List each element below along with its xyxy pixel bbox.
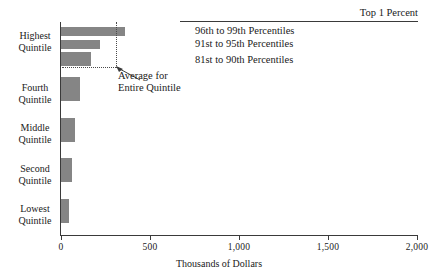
category-label-highest-quintile-line-1: Highest (3, 30, 67, 42)
category-label-highest-quintile-line-2: Quintile (3, 42, 67, 54)
category-label-lowest-quintile: Lowest Quintile (3, 203, 67, 226)
callout-96th-to-99th: 96th to 99th Percentiles (195, 25, 294, 37)
average-vertical-dotted-line (116, 22, 117, 68)
x-tick-1000 (239, 236, 240, 240)
x-tick-2000 (417, 236, 418, 240)
average-note-line-1: Average for (118, 70, 181, 82)
category-label-middle-quintile-line-1: Middle (3, 122, 67, 134)
category-label-second-quintile: Second Quintile (3, 163, 67, 186)
category-label-middle-quintile: Middle Quintile (3, 122, 67, 145)
x-tick-0 (61, 236, 62, 240)
x-tick-label-1500: 1,500 (317, 242, 339, 252)
top-header-rule (180, 21, 418, 22)
x-tick-label-500: 500 (143, 242, 158, 252)
average-note: Average for Entire Quintile (118, 70, 181, 94)
category-label-lowest-quintile-line-2: Quintile (3, 215, 67, 227)
income-distribution-bar-chart: Top 1 Percent 0 500 1,000 1,500 2,000 Th… (0, 0, 438, 278)
callout-81st-to-90th: 81st to 90th Percentiles (195, 54, 293, 66)
category-label-second-quintile-line-1: Second (3, 163, 67, 175)
category-label-second-quintile-line-2: Quintile (3, 175, 67, 187)
callout-91st-to-95th: 91st to 95th Percentiles (195, 38, 293, 50)
category-label-middle-quintile-line-2: Quintile (3, 134, 67, 146)
bar-81st-to-90th-percentiles (61, 52, 91, 66)
category-label-fourth-quintile: Fourth Quintile (3, 82, 67, 105)
x-tick-label-1000: 1,000 (228, 242, 250, 252)
x-tick-label-0: 0 (59, 242, 64, 252)
x-tick-1500 (328, 236, 329, 240)
top-1-percent-label: Top 1 Percent (360, 7, 418, 18)
x-tick-label-2000: 2,000 (406, 242, 428, 252)
average-horizontal-dotted-line (62, 67, 116, 68)
x-tick-500 (150, 236, 151, 240)
category-label-highest-quintile: Highest Quintile (3, 30, 67, 53)
x-axis-title: Thousands of Dollars (0, 258, 438, 269)
category-label-fourth-quintile-line-2: Quintile (3, 94, 67, 106)
category-label-lowest-quintile-line-1: Lowest (3, 203, 67, 215)
category-label-fourth-quintile-line-1: Fourth (3, 82, 67, 94)
average-note-line-2: Entire Quintile (118, 82, 181, 94)
